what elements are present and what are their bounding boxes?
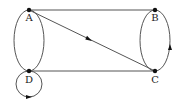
graph-diagram: A B C D xyxy=(0,0,178,103)
node-label-c: C xyxy=(151,75,159,85)
edge-a-c xyxy=(29,10,155,71)
node-c xyxy=(153,69,157,73)
arrow-a-c-icon xyxy=(85,36,92,41)
arrow-b-c-icon xyxy=(168,44,172,50)
arrow-d-loop-icon xyxy=(26,95,32,99)
node-label-a: A xyxy=(25,13,32,23)
node-label-b: B xyxy=(151,13,158,23)
node-label-d: D xyxy=(25,75,33,85)
node-d xyxy=(27,69,31,73)
